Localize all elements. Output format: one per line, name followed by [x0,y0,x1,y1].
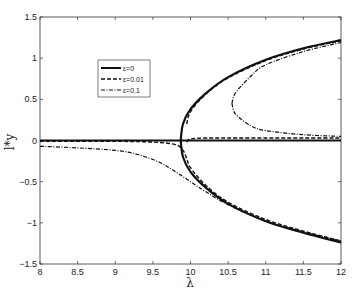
y-axis-label: l*y [3,133,17,150]
legend: ε=0 ε=0.01 ε=0.1 [98,60,150,97]
x-axis-label: λ [186,276,194,290]
y-tick-label: −0.5 [19,177,37,187]
x-tick-label: 9.5 [147,267,160,277]
x-tick-label: 10.5 [219,267,237,277]
x-tick-label: 12 [336,267,346,277]
y-tick-label: 1.5 [24,12,37,22]
x-tick-label: 11 [261,267,270,277]
x-tick-label: 11.5 [295,267,312,277]
y-tick-label: −1.5 [19,259,37,269]
x-tick-label: 9 [113,267,118,277]
y-tick-label: 1 [32,53,37,63]
legend-label-2: ε=0.1 [123,87,140,94]
legend-label-1: ε=0.01 [123,76,144,83]
y-tick-label: −1 [27,218,37,228]
x-tick-label: 8.5 [71,267,84,277]
bifurcation-chart: 88.599.51010.51111.512 −1.5−1−0.500.511.… [0,0,354,298]
y-tick-label: 0.5 [24,94,37,104]
y-tick-label: 0 [32,136,37,146]
x-tick-label: 8 [37,267,42,277]
legend-label-0: ε=0 [123,65,134,72]
